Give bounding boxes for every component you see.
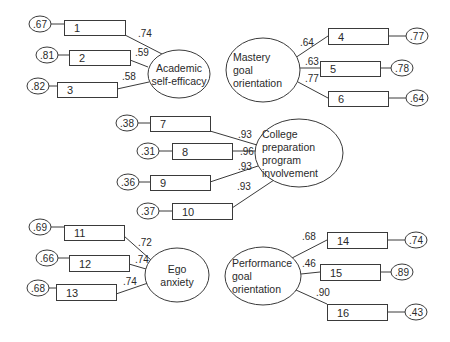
error-variance-value: .66 <box>40 253 54 264</box>
error-variance-value: .37 <box>141 206 155 217</box>
factor-loading-value: .59 <box>135 47 149 58</box>
latent-factor-label: Mastery <box>233 51 271 63</box>
latent-factor-label: goal <box>232 270 252 282</box>
indicator-label: 15 <box>330 267 342 279</box>
error-variance-value: .69 <box>33 222 47 233</box>
factor-loading-value: .74 <box>135 254 149 265</box>
error-variance-value: .89 <box>395 267 409 278</box>
latent-factor-label: Academic <box>156 62 202 74</box>
error-variance-value: .67 <box>33 19 47 30</box>
loading-path <box>298 82 328 98</box>
factor-loading-value: .77 <box>305 73 319 84</box>
loading-path <box>130 60 148 67</box>
factor-loading-value: .64 <box>300 37 314 48</box>
factor-loading-value: .74 <box>138 28 152 39</box>
indicator-label: 12 <box>79 258 91 270</box>
loading-path <box>292 240 327 258</box>
indicator-label: 3 <box>67 84 73 96</box>
factor-loading-value: .63 <box>305 56 319 67</box>
latent-factor-label: Performance <box>232 257 292 269</box>
indicator-label: 5 <box>330 63 336 75</box>
error-variance-value: .38 <box>120 118 134 129</box>
factor-loading-value: .93 <box>237 181 251 192</box>
error-variance-value: .43 <box>409 307 423 318</box>
indicator-label: 8 <box>182 146 188 158</box>
latent-factor-label: Ego <box>168 263 187 275</box>
latent-factor-label: program <box>262 154 301 166</box>
factor-loading-value: .93 <box>238 161 252 172</box>
latent-factor-label: orientation <box>232 283 281 295</box>
factor-loading-value: .72 <box>138 237 152 248</box>
error-variance-value: .68 <box>31 283 45 294</box>
factor-loading-value: .96 <box>240 146 254 157</box>
error-variance-value: .31 <box>141 146 155 157</box>
error-variance-value: .36 <box>121 177 135 188</box>
latent-factor-label: orientation <box>233 77 282 89</box>
latent-factor-label: self-efficacy <box>151 75 207 87</box>
loading-path <box>117 82 149 89</box>
error-variance-value: .64 <box>410 93 424 104</box>
factor-loading-value: .93 <box>238 129 252 140</box>
loading-path <box>301 272 320 274</box>
factor-loading-value: .46 <box>302 258 316 269</box>
indicator-label: 2 <box>79 52 85 64</box>
error-variance-value: .77 <box>410 31 424 42</box>
latent-factor-label: goal <box>233 64 253 76</box>
error-variance-value: .74 <box>409 235 423 246</box>
factor-loading-value: .90 <box>316 287 330 298</box>
factor-loading-value: .74 <box>123 276 137 287</box>
sem-diagram: 1.67.742.81.593.82.58Academicself-effica… <box>0 0 450 342</box>
indicator-label: 9 <box>160 177 166 189</box>
factor-loading-value: .58 <box>122 71 136 82</box>
latent-factor-label: preparation <box>262 141 315 153</box>
latent-factor-label: College <box>262 128 298 140</box>
factor-loading-value: .68 <box>302 231 316 242</box>
indicator-label: 1 <box>74 22 80 34</box>
error-variance-value: .81 <box>40 50 54 61</box>
error-variance-value: .82 <box>31 81 45 92</box>
indicator-label: 6 <box>338 93 344 105</box>
latent-factor-label: anxiety <box>160 276 194 288</box>
indicator-label: 16 <box>337 307 349 319</box>
diagram-canvas: 1.67.742.81.593.82.58Academicself-effica… <box>0 0 450 342</box>
indicator-label: 10 <box>182 206 194 218</box>
latent-factor-label: involvement <box>262 167 318 179</box>
indicator-label: 14 <box>337 235 349 247</box>
error-variance-value: .78 <box>395 63 409 74</box>
indicator-label: 13 <box>66 287 78 299</box>
indicator-label: 11 <box>74 227 85 239</box>
indicator-label: 7 <box>160 118 166 130</box>
indicator-label: 4 <box>338 31 344 43</box>
